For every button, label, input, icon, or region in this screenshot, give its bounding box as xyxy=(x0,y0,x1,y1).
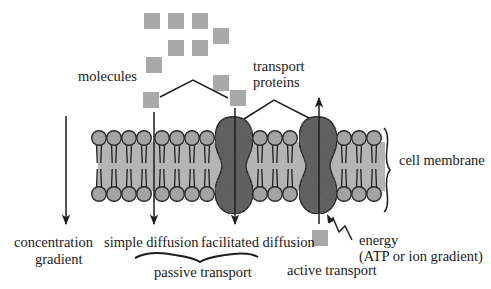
lipid-head-bottom xyxy=(122,187,137,202)
lipid-head-top xyxy=(92,131,107,146)
molecule-square xyxy=(192,13,208,29)
lipid-head-bottom xyxy=(268,187,283,202)
lipid-head-bottom xyxy=(155,187,170,202)
molecule-square xyxy=(143,92,159,108)
molecule-square xyxy=(146,57,162,73)
molecule-square xyxy=(192,40,208,56)
molecule-square xyxy=(144,13,160,29)
lipid-head-bottom xyxy=(337,187,352,202)
energy-label-line1: energy xyxy=(359,232,398,248)
lipid-head-top xyxy=(367,131,382,146)
molecule-square xyxy=(213,28,229,44)
energy-label-line2: (ATP or ion gradient) xyxy=(359,248,483,264)
molecule-square xyxy=(168,13,184,29)
lipid-head-bottom xyxy=(170,187,185,202)
lipid-head-bottom xyxy=(92,187,107,202)
passive-transport-brace xyxy=(135,253,258,262)
lipid-head-bottom xyxy=(137,187,152,202)
facilitated-diffusion-label: facilitated diffusion xyxy=(201,234,315,250)
cell-membrane-label: cell membrane xyxy=(399,152,485,168)
lipid-head-top xyxy=(283,131,298,146)
passive-transport-label: passive transport xyxy=(154,264,252,280)
lipid-head-top xyxy=(337,131,352,146)
molecule-square xyxy=(168,40,184,56)
lipid-head-top xyxy=(268,131,283,146)
active-transport-label: active transport xyxy=(287,262,377,278)
lipid-head-bottom xyxy=(107,187,122,202)
transport-proteins-label-line2: proteins xyxy=(253,74,300,90)
lipid-head-bottom xyxy=(253,187,268,202)
lipid-head-top xyxy=(352,131,367,146)
lipid-tail xyxy=(97,144,98,187)
lipid-head-bottom xyxy=(283,187,298,202)
lipid-head-top xyxy=(170,131,185,146)
lipid-head-top xyxy=(122,131,137,146)
simple-diffusion-label: simple diffusion xyxy=(104,234,198,250)
lipid-head-bottom xyxy=(352,187,367,202)
concentration-gradient-label-line1: concentration xyxy=(14,234,93,250)
transport-proteins-pointer-line xyxy=(244,100,311,119)
lipid-head-bottom xyxy=(185,187,200,202)
lipid-head-top xyxy=(137,131,152,146)
lipid-head-top xyxy=(185,131,200,146)
lipid-head-top xyxy=(200,131,215,146)
lipid-head-bottom xyxy=(200,187,215,202)
lipid-head-top xyxy=(107,131,122,146)
lipid-head-bottom xyxy=(367,187,382,202)
lipid-head-top xyxy=(253,131,268,146)
lipid-head-top xyxy=(155,131,170,146)
transport-proteins-label-line1: transport xyxy=(253,58,305,74)
concentration-gradient-label-line2: gradient xyxy=(35,251,83,267)
molecule-square xyxy=(230,90,246,106)
molecules-label: molecules xyxy=(78,68,137,84)
molecule-square xyxy=(213,75,229,91)
